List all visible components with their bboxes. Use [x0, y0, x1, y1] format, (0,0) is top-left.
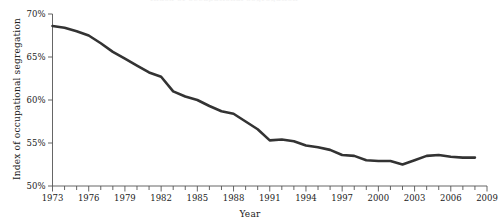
- x-tick-label: 1997: [331, 193, 353, 203]
- x-tick-label: 1985: [187, 193, 209, 203]
- chart-plot-area: 70%65%60%55%50% 197319761979198219851988…: [0, 0, 500, 224]
- x-tick-label: 1991: [259, 193, 281, 203]
- data-series-group: [53, 26, 475, 164]
- x-tick-label: 2006: [440, 193, 462, 203]
- y-tick-label: 55%: [27, 138, 46, 148]
- x-tick-label: 2003: [404, 193, 426, 203]
- data-line-occupational-segregation: [53, 26, 475, 164]
- x-tick-label: 1994: [295, 193, 317, 203]
- x-tick-label: 1973: [42, 193, 64, 203]
- y-tick-label: 65%: [27, 52, 46, 62]
- x-tick-label: 1988: [223, 193, 245, 203]
- x-tick-label: 1976: [78, 193, 100, 203]
- x-tick-label: 1982: [150, 193, 172, 203]
- y-tick-label: 50%: [27, 181, 46, 191]
- chart-figure: Index of occupational segregation 70%65%…: [0, 0, 500, 224]
- y-axis-title: Index of occupational segregation: [12, 20, 22, 180]
- x-tick-label: 1979: [114, 193, 136, 203]
- y-axis: 70%65%60%55%50%: [27, 9, 53, 191]
- y-tick-label: 70%: [27, 9, 46, 19]
- x-tick-label: 2000: [368, 193, 390, 203]
- x-axis-title: Year: [0, 209, 500, 219]
- y-tick-label: 60%: [27, 95, 46, 105]
- x-tick-label: 2009: [476, 193, 498, 203]
- x-axis: 1973197619791982198519881991199419972000…: [42, 186, 498, 203]
